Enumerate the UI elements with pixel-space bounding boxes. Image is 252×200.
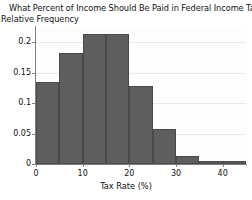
x-tick-label: 30 [164,169,188,178]
x-tick-label: 40 [211,169,235,178]
y-axis-label: Relative Frequency [1,14,79,25]
x-tick-label: 20 [117,169,141,178]
y-tick-label-wrap: 0.05 [0,130,31,138]
histogram-bar [106,34,129,164]
histogram-bar [59,53,82,164]
plot-area [36,28,246,164]
y-tick-label: 0.05 [1,130,31,138]
x-tick-mark [223,164,224,167]
histogram-bar [176,156,199,164]
x-axis-line [35,164,247,165]
y-tick-label: 0.15 [1,69,31,77]
y-tick-mark [32,164,35,165]
y-tick-label-wrap: 0.15 [0,69,31,77]
y-tick-mark [32,73,35,74]
chart-title: What Percent of Income Should Be Paid in… [9,3,251,14]
x-tick-mark [83,164,84,167]
y-tick-mark [32,134,35,135]
histogram-bar [153,129,176,164]
x-tick-label: 0 [24,169,48,178]
y-tick-mark [32,103,35,104]
gridline-y [36,42,246,43]
y-tick-label-wrap: 0.2 [0,38,31,46]
x-tick-mark [129,164,130,167]
histogram-bar [83,34,106,164]
histogram-figure: What Percent of Income Should Be Paid in… [0,0,252,200]
x-tick-mark [176,164,177,167]
y-tick-label: 0.2 [1,38,31,46]
histogram-bar [129,86,152,164]
x-tick-mark [36,164,37,167]
y-axis-line [35,26,36,165]
x-axis-label: Tax Rate (%) [0,181,252,191]
x-tick-label: 10 [71,169,95,178]
y-tick-label: 0 [1,160,31,168]
histogram-bar [36,82,59,164]
y-tick-label-wrap: 0 [0,160,31,168]
y-tick-label: 0.1 [1,99,31,107]
y-tick-mark [32,42,35,43]
y-tick-label-wrap: 0.1 [0,99,31,107]
